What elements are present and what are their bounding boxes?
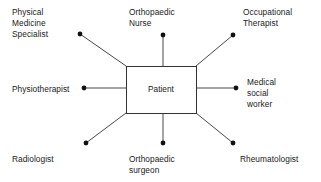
node-label-line: Orthopaedic [129, 154, 175, 165]
node-label-line: surgeon [129, 165, 175, 176]
node-label-physiotherapist: Physiotherapist [12, 84, 69, 95]
node-label-line: social [247, 88, 276, 99]
node-label-occupational-therapist: OccupationalTherapist [243, 7, 292, 29]
node-label-line: Orthopaedic [129, 7, 175, 18]
endpoint-dot-rheumatologist [231, 141, 236, 146]
endpoint-dot-radiologist [84, 141, 89, 146]
endpoint-dot-physiotherapist [82, 86, 87, 91]
patient-center-label: Patient [126, 84, 196, 94]
diagram-canvas: Patient PhysicalMedicineSpecialistOrthop… [0, 0, 321, 182]
node-label-line: Therapist [243, 18, 292, 29]
node-label-rheumatologist: Rheumatologist [240, 154, 298, 165]
node-label-line: Occupational [243, 7, 292, 18]
endpoint-dot-physical-medicine-specialist [78, 32, 83, 37]
node-label-orthopaedic-surgeon: Orthopaedicsurgeon [129, 154, 175, 176]
endpoint-dot-orthopaedic-surgeon [161, 141, 166, 146]
endpoint-dot-orthopaedic-nurse [161, 33, 166, 38]
node-label-line: worker [247, 99, 276, 110]
endpoint-dot-medical-social-worker [234, 86, 239, 91]
node-label-orthopaedic-nurse: OrthopaedicNurse [129, 7, 175, 29]
connector-line-occupational-therapist [196, 35, 233, 66]
connector-line-physical-medicine-specialist [80, 34, 126, 66]
node-label-line: Radiologist [12, 154, 54, 165]
connector-line-radiologist [86, 113, 126, 143]
node-label-line: Nurse [129, 18, 175, 29]
node-label-radiologist: Radiologist [12, 154, 54, 165]
node-label-line: Medicine [12, 18, 48, 29]
node-label-medical-social-worker: Medicalsocialworker [247, 77, 276, 111]
node-label-line: Physiotherapist [12, 84, 69, 95]
node-label-line: Physical [12, 7, 48, 18]
node-label-line: Rheumatologist [240, 154, 298, 165]
connector-line-rheumatologist [196, 113, 233, 143]
node-label-line: Medical [247, 77, 276, 88]
node-label-line: Specialist [12, 29, 48, 40]
node-label-physical-medicine-specialist: PhysicalMedicineSpecialist [12, 7, 48, 41]
endpoint-dot-occupational-therapist [231, 33, 236, 38]
